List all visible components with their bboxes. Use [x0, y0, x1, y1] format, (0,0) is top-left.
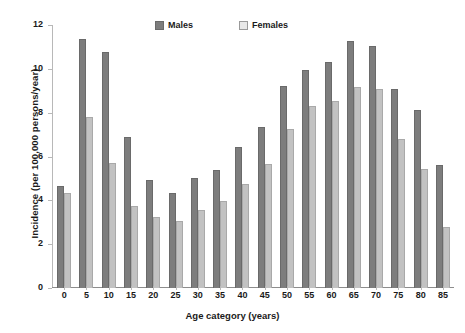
- bar-males-65: [347, 41, 354, 288]
- x-axis-tick: 60: [320, 290, 342, 300]
- x-axis-tick: 20: [142, 290, 164, 300]
- bar-males-15: [124, 137, 131, 288]
- y-axis-tick-label: 4: [38, 194, 43, 204]
- bar-group: [343, 25, 365, 288]
- x-axis-tick-mark: [265, 286, 266, 290]
- y-axis-tick-mark: [48, 200, 52, 201]
- x-axis-tick-label: 60: [320, 290, 342, 300]
- x-axis-ticks: 0510152025303540455055606570758085: [53, 290, 454, 300]
- bar-females-35: [220, 201, 227, 288]
- y-axis-tick-mark: [48, 69, 52, 70]
- bar-group: [365, 25, 387, 288]
- bar-females-25: [176, 221, 183, 288]
- y-axis-tick-mark: [48, 244, 52, 245]
- bar-group: [320, 25, 342, 288]
- x-axis-tick-mark: [131, 286, 132, 290]
- bar-males-60: [325, 62, 332, 288]
- x-axis-tick: 50: [276, 290, 298, 300]
- x-axis-tick-label: 20: [142, 290, 164, 300]
- bar-males-70: [369, 46, 376, 288]
- bar-females-45: [265, 164, 272, 288]
- x-axis-tick-label: 15: [120, 290, 142, 300]
- y-axis-tick-label: 10: [33, 63, 43, 73]
- bar-females-55: [309, 106, 316, 288]
- incidence-by-age-bar-chart: Incidence (per 100,000 persons/year) Mal…: [0, 0, 465, 333]
- x-axis-tick: 75: [387, 290, 409, 300]
- x-axis-tick: 5: [75, 290, 97, 300]
- bar-group: [432, 25, 454, 288]
- x-axis-tick-label: 85: [432, 290, 454, 300]
- bar-group: [410, 25, 432, 288]
- bar-females-60: [332, 101, 339, 288]
- x-axis-tick-label: 30: [187, 290, 209, 300]
- x-axis-tick-mark: [109, 286, 110, 290]
- y-axis-tick-mark: [48, 157, 52, 158]
- bar-group: [120, 25, 142, 288]
- bar-females-5: [86, 117, 93, 288]
- y-axis-tick-mark: [48, 113, 52, 114]
- x-axis-tick-mark: [354, 286, 355, 290]
- bar-group: [75, 25, 97, 288]
- bar-females-70: [376, 89, 383, 288]
- y-axis-tick-label: 0: [38, 282, 43, 292]
- bar-males-55: [302, 70, 309, 288]
- bar-group: [231, 25, 253, 288]
- x-axis-tick-label: 0: [53, 290, 75, 300]
- x-axis-tick: 0: [53, 290, 75, 300]
- x-axis-tick-label: 55: [298, 290, 320, 300]
- bar-females-20: [153, 217, 160, 288]
- x-axis-title: Age category (years): [0, 310, 465, 321]
- x-axis-tick-mark: [421, 286, 422, 290]
- bar-group: [276, 25, 298, 288]
- x-axis-tick: 55: [298, 290, 320, 300]
- bar-group: [298, 25, 320, 288]
- bar-males-20: [146, 180, 153, 288]
- bar-group: [142, 25, 164, 288]
- x-axis-tick-label: 65: [343, 290, 365, 300]
- x-axis-tick-mark: [64, 286, 65, 290]
- x-axis-tick-mark: [220, 286, 221, 290]
- x-axis-tick-label: 25: [164, 290, 186, 300]
- bar-group: [98, 25, 120, 288]
- x-axis-tick-mark: [332, 286, 333, 290]
- x-axis-tick: 10: [98, 290, 120, 300]
- bar-females-65: [354, 87, 361, 288]
- bar-males-45: [258, 127, 265, 288]
- bar-group: [254, 25, 276, 288]
- x-axis-tick: 25: [164, 290, 186, 300]
- x-axis-tick-label: 40: [231, 290, 253, 300]
- bar-males-75: [391, 89, 398, 288]
- x-axis-tick: 85: [432, 290, 454, 300]
- bar-males-80: [414, 110, 421, 288]
- bar-females-80: [421, 169, 428, 288]
- y-axis-tick-label: 2: [38, 238, 43, 248]
- x-axis-tick: 80: [410, 290, 432, 300]
- caption-strip: [0, 327, 465, 333]
- bar-group: [53, 25, 75, 288]
- x-axis-tick: 70: [365, 290, 387, 300]
- x-axis-tick-mark: [398, 286, 399, 290]
- bar-males-40: [235, 147, 242, 288]
- bar-females-40: [242, 184, 249, 288]
- bar-males-25: [169, 193, 176, 288]
- bar-males-50: [280, 86, 287, 288]
- x-axis-tick: 45: [254, 290, 276, 300]
- x-axis-tick-mark: [376, 286, 377, 290]
- x-axis-tick-label: 35: [209, 290, 231, 300]
- x-axis-tick-mark: [443, 286, 444, 290]
- x-axis-tick-mark: [287, 286, 288, 290]
- y-axis-tick-label: 12: [33, 19, 43, 29]
- y-axis-tick-mark: [48, 25, 52, 26]
- bar-groups: [53, 25, 454, 288]
- x-axis-tick: 15: [120, 290, 142, 300]
- x-axis-tick: 65: [343, 290, 365, 300]
- x-axis-tick-mark: [176, 286, 177, 290]
- bar-males-0: [57, 186, 64, 288]
- x-axis-tick-mark: [198, 286, 199, 290]
- bar-females-0: [64, 193, 71, 288]
- plot-area: 024681012: [52, 25, 454, 288]
- y-axis-tick-mark: [48, 288, 52, 289]
- x-axis-tick-label: 45: [254, 290, 276, 300]
- x-axis-tick-label: 80: [410, 290, 432, 300]
- bar-females-15: [131, 206, 138, 288]
